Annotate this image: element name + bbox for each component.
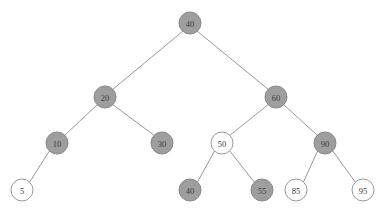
tree-node-10[interactable]: 10 (46, 132, 68, 154)
tree-edge (197, 31, 269, 90)
node-circle[interactable] (265, 86, 287, 108)
node-circle[interactable] (285, 179, 307, 201)
tree-node-55[interactable]: 55 (251, 179, 273, 201)
tree-edge (112, 31, 183, 90)
tree-node-90[interactable]: 90 (314, 132, 336, 154)
tree-node-30[interactable]: 30 (151, 132, 173, 154)
node-circle[interactable] (352, 179, 374, 201)
node-circle[interactable] (179, 179, 201, 201)
tree-edge (29, 150, 50, 183)
tree-node-40[interactable]: 40 (179, 12, 201, 34)
node-circle[interactable] (179, 12, 201, 34)
edges-group (29, 31, 356, 183)
tree-edge (229, 150, 255, 183)
tree-edge (112, 104, 155, 136)
node-circle[interactable] (251, 179, 273, 201)
tree-node-40[interactable]: 40 (179, 179, 201, 201)
node-circle[interactable] (46, 132, 68, 154)
tree-edge (229, 104, 269, 136)
tree-node-50[interactable]: 50 (211, 132, 233, 154)
tree-edge (332, 150, 356, 183)
tree-node-85[interactable]: 85 (285, 179, 307, 201)
node-circle[interactable] (211, 132, 233, 154)
nodes-group: 40206010305090540558595 (11, 12, 374, 201)
binary-tree-diagram: 40206010305090540558595 (0, 0, 385, 211)
tree-edge (197, 150, 215, 183)
tree-canvas: 40206010305090540558595 (0, 0, 385, 211)
tree-node-60[interactable]: 60 (265, 86, 287, 108)
tree-edge (303, 150, 318, 183)
node-circle[interactable] (314, 132, 336, 154)
node-circle[interactable] (151, 132, 173, 154)
tree-node-95[interactable]: 95 (352, 179, 374, 201)
tree-edge (64, 104, 98, 136)
node-circle[interactable] (94, 86, 116, 108)
tree-edge (283, 104, 318, 136)
tree-node-20[interactable]: 20 (94, 86, 116, 108)
node-circle[interactable] (11, 179, 33, 201)
tree-node-5[interactable]: 5 (11, 179, 33, 201)
